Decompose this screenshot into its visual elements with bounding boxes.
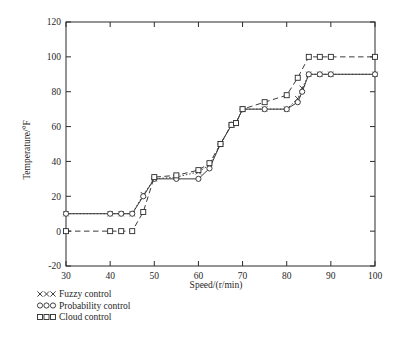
legend-marker-icon <box>51 315 56 320</box>
data-point <box>317 72 322 77</box>
y-axis-title: Temperature/°F <box>22 120 32 180</box>
y-tick-label: 80 <box>52 87 62 97</box>
data-point <box>306 72 311 77</box>
x-tick-label: 30 <box>61 271 71 281</box>
x-tick-label: 80 <box>282 271 292 281</box>
x-tick-label: 50 <box>150 271 160 281</box>
data-point <box>207 166 212 171</box>
legend-label: Probability control <box>59 301 131 311</box>
data-point <box>207 161 212 166</box>
y-tick-label: 100 <box>47 52 62 62</box>
data-point <box>174 173 179 178</box>
data-point <box>295 100 300 105</box>
data-point <box>306 54 311 59</box>
chart-figure: 30405060708090100 -20020406080100120 Spe… <box>0 0 403 337</box>
data-point <box>196 176 201 181</box>
data-point <box>196 168 201 173</box>
data-point <box>130 229 135 234</box>
data-point <box>152 175 157 180</box>
data-point <box>233 121 238 126</box>
data-point <box>373 54 378 59</box>
data-point <box>130 211 135 216</box>
data-point <box>63 211 68 216</box>
legend-marker-icon <box>44 315 49 320</box>
data-point <box>295 75 300 80</box>
data-point <box>119 229 124 234</box>
data-point <box>218 142 223 147</box>
y-tick-label: 0 <box>56 227 61 237</box>
y-tick-label: 120 <box>47 17 62 27</box>
data-point <box>141 194 146 199</box>
y-tick-label: 60 <box>52 122 62 132</box>
legend-marker-icon <box>38 315 43 320</box>
legend-label: Fuzzy control <box>59 289 112 299</box>
y-tick-label: 20 <box>52 192 62 202</box>
data-point <box>262 107 267 112</box>
data-point <box>372 72 377 77</box>
data-point <box>108 211 113 216</box>
data-point <box>317 54 322 59</box>
data-point <box>328 72 333 77</box>
x-tick-label: 100 <box>368 271 383 281</box>
legend-label: Cloud control <box>59 312 112 322</box>
x-axis-title: Speed/(r/min) <box>190 280 243 291</box>
x-tick-label: 90 <box>326 271 336 281</box>
data-point <box>141 209 146 214</box>
data-point <box>328 54 333 59</box>
legend-marker-icon <box>50 303 55 308</box>
legend-marker-icon <box>44 303 49 308</box>
data-point <box>300 89 305 94</box>
data-point <box>284 93 289 98</box>
data-point <box>64 229 69 234</box>
temperature-speed-line-chart: 30405060708090100 -20020406080100120 Spe… <box>0 0 403 337</box>
legend-marker-icon <box>37 303 42 308</box>
data-point <box>262 100 267 105</box>
y-tick-label: 40 <box>52 157 62 167</box>
data-point <box>240 107 245 112</box>
x-tick-label: 40 <box>105 271 115 281</box>
y-tick-label: -20 <box>48 261 61 271</box>
data-point <box>284 107 289 112</box>
data-point <box>119 211 124 216</box>
data-point <box>108 229 113 234</box>
